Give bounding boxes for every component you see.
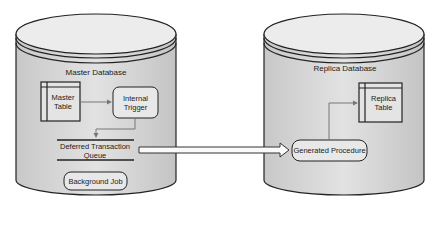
internal-trigger-line2: Trigger xyxy=(113,103,158,112)
master-table-label-line1: Master xyxy=(46,93,80,102)
generated-procedure-label: Generated Procedure xyxy=(292,146,367,155)
internal-trigger-line1: Internal xyxy=(113,94,158,103)
queue-line1: Deferred Transaction xyxy=(52,142,138,151)
queue-line2: Queue xyxy=(52,151,138,160)
background-job-label: Background Job xyxy=(64,177,127,186)
master-table-label-line2: Table xyxy=(46,102,80,111)
replica-table-line2: Table xyxy=(365,103,402,112)
replica-table-label: Replica Table xyxy=(365,94,402,112)
deferred-queue-label: Deferred Transaction Queue xyxy=(52,142,138,160)
replica-database-title: Replica Database xyxy=(300,64,390,73)
master-database-title: Master Database xyxy=(56,68,136,77)
master-table-label: Master Table xyxy=(46,93,80,111)
internal-trigger-label: Internal Trigger xyxy=(113,94,158,112)
replica-table-line1: Replica xyxy=(365,94,402,103)
